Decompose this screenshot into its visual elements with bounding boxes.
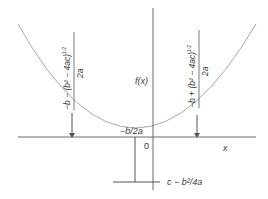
quadratic-diagram: f(x) x 0 −b/2a c − b²/4a −b − (b² − 4ac)…: [0, 0, 268, 199]
left-root-numerator: −b − (b² − 4ac)1/2: [61, 47, 72, 110]
vertex-y-label: c − b²/4a: [167, 177, 202, 187]
origin-label: 0: [144, 141, 149, 151]
x-axis-label: x: [222, 143, 228, 153]
left-root-denominator: 2a: [75, 68, 85, 79]
right-root-numerator: −b + (b² − 4ac)1/2: [186, 45, 197, 108]
y-axis-label: f(x): [135, 76, 148, 86]
right-root-label: −b + (b² − 4ac)1/2 2a: [186, 30, 210, 108]
right-root-denominator: 2a: [200, 66, 210, 77]
vertex-x-label: −b/2a: [120, 126, 143, 136]
